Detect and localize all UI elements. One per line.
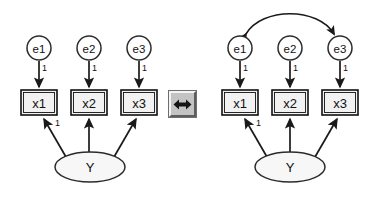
node-x1-label: x1 bbox=[233, 96, 247, 111]
node-x2-label: x2 bbox=[283, 96, 297, 111]
diagram-canvas: x1 x2 x3 e1 e2 e3 Y 1 1 1 1 bbox=[0, 0, 375, 200]
node-Y-label: Y bbox=[286, 160, 295, 175]
node-e2-label: e2 bbox=[83, 43, 96, 55]
correlation-arc-e1-e3 bbox=[246, 14, 334, 34]
node-e1-label: e1 bbox=[234, 43, 247, 55]
node-Y-label: Y bbox=[86, 160, 95, 175]
node-x3-label: x3 bbox=[333, 96, 347, 111]
label-path-e3-x3: 1 bbox=[142, 63, 147, 73]
model-toggle-button[interactable] bbox=[169, 91, 196, 117]
node-e3-label: e3 bbox=[133, 43, 146, 55]
label-path-e1-x1: 1 bbox=[243, 63, 248, 73]
node-x2-label: x2 bbox=[82, 96, 96, 111]
node-e3-label: e3 bbox=[334, 43, 347, 55]
right-panel: x1 x2 x3 e1 e2 e3 Y 1 1 1 1 bbox=[222, 14, 358, 182]
label-path-Y-x1: 1 bbox=[55, 118, 60, 128]
path-Y-to-x3 bbox=[315, 119, 337, 157]
left-panel: x1 x2 x3 e1 e2 e3 Y 1 1 1 1 bbox=[21, 36, 157, 182]
node-x1-label: x1 bbox=[32, 96, 46, 111]
node-e2-label: e2 bbox=[284, 43, 297, 55]
label-path-e2-x2: 1 bbox=[293, 63, 298, 73]
node-e1-label: e1 bbox=[33, 43, 46, 55]
label-path-e2-x2: 1 bbox=[92, 63, 97, 73]
label-path-Y-x1: 1 bbox=[256, 118, 261, 128]
path-Y-to-x3 bbox=[114, 119, 136, 157]
node-x3-label: x3 bbox=[132, 96, 146, 111]
label-path-e1-x1: 1 bbox=[42, 63, 47, 73]
double-headed-horizontal-arrow-icon bbox=[173, 98, 192, 111]
label-path-e3-x3: 1 bbox=[343, 63, 348, 73]
